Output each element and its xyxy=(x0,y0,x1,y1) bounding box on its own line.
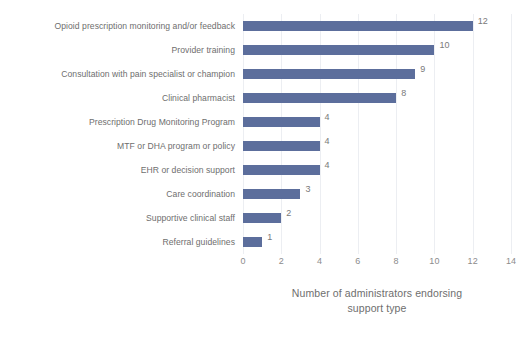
bar-row: 3 xyxy=(243,182,511,206)
category-label-row: MTF or DHA program or policy xyxy=(0,134,238,158)
x-axis-title-line-1: Number of administrators endorsing xyxy=(243,286,511,301)
bar-chart: Opioid prescription monitoring and/or fe… xyxy=(0,0,528,337)
bar-row: 4 xyxy=(243,110,511,134)
category-label: Provider training xyxy=(172,45,235,55)
x-axis-title-line-2: support type xyxy=(243,301,511,316)
bar xyxy=(243,189,300,199)
category-label-row: EHR or decision support xyxy=(0,158,238,182)
bar-value-label: 4 xyxy=(325,112,330,122)
bar xyxy=(243,69,415,79)
bar-row: 4 xyxy=(243,158,511,182)
bar-row: 2 xyxy=(243,206,511,230)
bar xyxy=(243,141,320,151)
category-label: Clinical pharmacist xyxy=(162,93,235,103)
bar-value-label: 12 xyxy=(478,16,488,26)
bar-row: 4 xyxy=(243,134,511,158)
plot-area: 121098444321 xyxy=(243,14,511,254)
x-tick-label: 10 xyxy=(429,256,439,266)
bar-value-label: 8 xyxy=(401,88,406,98)
x-tick-label: 2 xyxy=(279,256,284,266)
x-tick-label: 14 xyxy=(506,256,516,266)
x-axis-title: Number of administrators endorsing suppo… xyxy=(243,286,511,316)
category-label: EHR or decision support xyxy=(141,165,235,175)
category-label-row: Provider training xyxy=(0,38,238,62)
category-label: Supportive clinical staff xyxy=(146,213,235,223)
x-tick-label: 6 xyxy=(355,256,360,266)
x-tick-label: 8 xyxy=(394,256,399,266)
bar xyxy=(243,213,281,223)
gridline xyxy=(511,14,512,254)
bar-value-label: 2 xyxy=(286,208,291,218)
bar-row: 8 xyxy=(243,86,511,110)
bar-value-label: 1 xyxy=(267,232,272,242)
category-label: Prescription Drug Monitoring Program xyxy=(89,117,235,127)
category-label: Consultation with pain specialist or cha… xyxy=(61,69,235,79)
bar-value-label: 4 xyxy=(325,136,330,146)
bar-value-label: 10 xyxy=(439,40,449,50)
bar-row: 1 xyxy=(243,230,511,254)
bar-row: 10 xyxy=(243,38,511,62)
category-axis: Opioid prescription monitoring and/or fe… xyxy=(0,14,238,254)
category-label-row: Care coordination xyxy=(0,182,238,206)
bar-row: 12 xyxy=(243,14,511,38)
category-label-row: Supportive clinical staff xyxy=(0,206,238,230)
category-label-row: Clinical pharmacist xyxy=(0,86,238,110)
category-label-row: Prescription Drug Monitoring Program xyxy=(0,110,238,134)
bar-value-label: 4 xyxy=(325,160,330,170)
bar xyxy=(243,237,262,247)
x-tick-label: 12 xyxy=(468,256,478,266)
bar xyxy=(243,117,320,127)
bar-value-label: 9 xyxy=(420,64,425,74)
x-tick-label: 4 xyxy=(317,256,322,266)
bar xyxy=(243,45,434,55)
category-label: Care coordination xyxy=(166,189,235,199)
bar-value-label: 3 xyxy=(305,184,310,194)
bar-row: 9 xyxy=(243,62,511,86)
category-label: Referral guidelines xyxy=(162,237,235,247)
category-label: Opioid prescription monitoring and/or fe… xyxy=(55,21,235,31)
category-label-row: Consultation with pain specialist or cha… xyxy=(0,62,238,86)
bar xyxy=(243,93,396,103)
category-label: MTF or DHA program or policy xyxy=(117,141,235,151)
x-tick-label: 0 xyxy=(240,256,245,266)
bar xyxy=(243,21,473,31)
x-axis-ticks: 02468101214 xyxy=(243,256,511,272)
bar xyxy=(243,165,320,175)
category-label-row: Opioid prescription monitoring and/or fe… xyxy=(0,14,238,38)
category-label-row: Referral guidelines xyxy=(0,230,238,254)
